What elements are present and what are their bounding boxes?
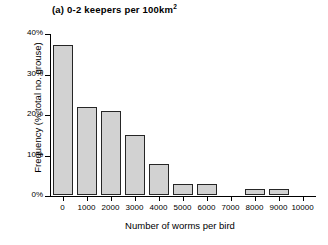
y-axis-tick-label: 20% <box>27 109 43 118</box>
y-axis-tick: 30% <box>45 75 50 76</box>
x-axis-tick-label: 1000 <box>78 203 96 212</box>
chart-figure: (a) 0-2 keepers per 100km2 Frequency (% … <box>0 0 328 245</box>
x-axis-tick <box>135 197 136 201</box>
bar <box>101 111 121 195</box>
bar <box>269 189 289 195</box>
x-axis-tick <box>111 197 112 201</box>
x-axis-tick-label: 0 <box>60 203 64 212</box>
chart-title-superscript: 2 <box>173 3 177 10</box>
bar <box>149 164 169 195</box>
x-axis-tick <box>63 197 64 201</box>
x-axis-tick-label: 10000 <box>291 203 313 212</box>
x-axis-tick-label: 9000 <box>270 203 288 212</box>
x-axis-tick-label: 5000 <box>174 203 192 212</box>
x-axis-tick-label: 7000 <box>222 203 240 212</box>
x-axis-tick <box>87 197 88 201</box>
x-axis-tick <box>231 197 232 201</box>
bar <box>197 184 217 195</box>
y-axis-tick: 20% <box>45 115 50 116</box>
x-axis-tick-label: 6000 <box>198 203 216 212</box>
bar <box>125 135 145 195</box>
x-axis-tick <box>159 197 160 201</box>
plot-area: 0%10%20%30%40% 0100020003000400050006000… <box>50 34 316 196</box>
x-axis-tick <box>183 197 184 201</box>
bar <box>77 107 97 195</box>
x-axis-tick-label: 8000 <box>246 203 264 212</box>
x-axis-tick-label: 2000 <box>102 203 120 212</box>
y-axis-tick: 0% <box>45 196 50 197</box>
chart-title: (a) 0-2 keepers per 100km2 <box>52 4 177 15</box>
y-axis-tick-label: 0% <box>31 190 43 199</box>
x-axis-tick <box>207 197 208 201</box>
x-axis-tick <box>279 197 280 201</box>
y-axis-tick-label: 40% <box>27 28 43 37</box>
bar <box>53 45 73 195</box>
y-axis-tick-label: 30% <box>27 69 43 78</box>
x-axis-tick <box>255 197 256 201</box>
y-axis-line <box>50 34 51 197</box>
y-axis-tick-label: 10% <box>27 150 43 159</box>
x-axis-tick-label: 4000 <box>150 203 168 212</box>
x-axis-tick-label: 3000 <box>126 203 144 212</box>
x-axis-title: Number of worms per bird <box>44 220 316 231</box>
y-axis-tick: 10% <box>45 156 50 157</box>
y-axis-title: Frequency (% total no. grouse) <box>32 23 43 193</box>
bar <box>173 184 193 195</box>
bar <box>245 189 265 195</box>
chart-title-text: (a) 0-2 keepers per 100km <box>52 4 173 15</box>
x-axis-tick <box>303 197 304 201</box>
y-axis-tick: 40% <box>45 34 50 35</box>
